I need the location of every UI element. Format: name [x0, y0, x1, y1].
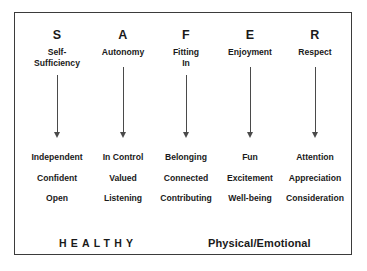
diagram-frame: S Self- Sufficiency Independent Confiden…: [14, 12, 352, 255]
column-letter-r: R: [276, 29, 354, 42]
arrowhead-icon: [183, 132, 189, 138]
arrowhead-icon: [120, 132, 126, 138]
down-arrow-icon: [186, 75, 187, 132]
column-title-respect: Respect: [272, 47, 358, 58]
footer-label-healthy: HEALTHY: [59, 237, 137, 249]
column-title-line2: Sufficiency: [34, 58, 80, 68]
column-title-line2: In: [182, 58, 190, 68]
arrowhead-icon: [247, 132, 253, 138]
down-arrow-icon: [250, 67, 251, 132]
column-values-respect: Attention Appreciation Consideration: [270, 147, 360, 209]
safer-diagram: S Self- Sufficiency Independent Confiden…: [0, 0, 367, 271]
value-item: Appreciation: [270, 168, 360, 189]
arrowhead-icon: [54, 132, 60, 138]
column-title-line1: Fitting: [173, 47, 199, 57]
column-title-line1: Respect: [298, 47, 331, 57]
footer-label-physical-emotional: Physical/Emotional: [208, 237, 311, 249]
down-arrow-icon: [315, 67, 316, 132]
arrowhead-icon: [312, 132, 318, 138]
value-item: Consideration: [270, 188, 360, 209]
column-title-line1: Autonomy: [102, 47, 145, 57]
down-arrow-icon: [57, 75, 58, 132]
column-title-line1: Self-: [48, 47, 67, 57]
value-item: Attention: [270, 147, 360, 168]
down-arrow-icon: [123, 67, 124, 132]
column-title-line1: Enjoyment: [228, 47, 272, 57]
